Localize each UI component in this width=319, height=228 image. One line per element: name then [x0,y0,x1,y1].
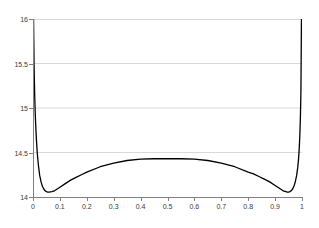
x-tick-0-7 [221,197,222,201]
x-tick-0-6 [194,197,195,201]
x-tick-0-5 [168,197,169,201]
x-axis-label-0-3: 0.3 [109,203,119,210]
x-tick-0-9 [275,197,276,201]
x-tick-0 [33,197,34,201]
y-axis-label-15-5: 15.5 [14,60,28,67]
x-axis-label-0-6: 0.6 [190,203,200,210]
x-tick-0-1 [60,197,61,201]
plot-area [33,19,302,197]
x-tick-0-2 [87,197,88,201]
x-axis-label-1: 1 [300,203,304,210]
x-axis-label-0-7: 0.7 [216,203,226,210]
x-axis-label-0-1: 0.1 [55,203,65,210]
curve-svg [33,19,302,197]
y-axis-label-14-5: 14.5 [14,149,28,156]
x-axis-label-0-2: 0.2 [82,203,92,210]
y-tick-14-5 [29,153,33,154]
x-axis-label-0-4: 0.4 [136,203,146,210]
x-tick-1 [302,197,303,201]
x-axis-label-0-8: 0.8 [243,203,253,210]
x-tick-0-8 [248,197,249,201]
gridlines-group [33,20,302,153]
y-axis-label-14: 14 [20,194,28,201]
x-axis-label-0-9: 0.9 [270,203,280,210]
y-tick-16 [29,19,33,20]
x-tick-0-4 [141,197,142,201]
x-axis-label-0: 0 [31,203,35,210]
x-tick-0-3 [114,197,115,201]
chart-container: 1414.51515.516 00.10.20.30.40.50.60.70.8… [0,0,319,228]
y-axis-line [33,19,34,198]
y-tick-15-5 [29,64,33,65]
y-tick-15 [29,108,33,109]
y-axis-label-16: 16 [20,16,28,23]
x-axis-label-0-5: 0.5 [163,203,173,210]
y-axis-label-15: 15 [20,105,28,112]
data-series-curve [34,19,302,192]
